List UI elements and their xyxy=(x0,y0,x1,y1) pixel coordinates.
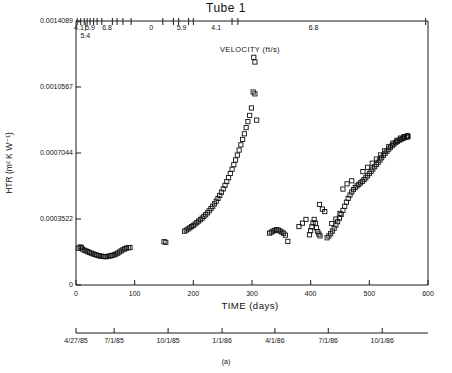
data-point xyxy=(307,233,311,237)
x-tick-label-3: 300 xyxy=(232,290,272,297)
date-tick-label-6: 10/1/86 xyxy=(356,337,408,344)
data-point xyxy=(242,132,246,136)
x-tick-label-6: 600 xyxy=(408,290,448,297)
velocity-tick-label-2: 5.4 xyxy=(73,32,97,39)
data-point xyxy=(232,163,236,167)
data-point xyxy=(239,143,243,147)
date-tick-label-3: 1/1/86 xyxy=(196,337,248,344)
velocity-axis xyxy=(77,18,425,31)
date-axis xyxy=(76,328,428,333)
date-tick-label-1: 7/1/85 xyxy=(88,337,140,344)
date-tick-label-5: 7/1/86 xyxy=(302,337,354,344)
velocity-tick-label-5: 5.9 xyxy=(170,24,194,31)
data-point xyxy=(252,55,256,59)
y-tick-label-3: 0.0010567 xyxy=(2,83,73,90)
data-point xyxy=(233,158,237,162)
data-point xyxy=(235,153,239,157)
x-tick-label-1: 100 xyxy=(115,290,155,297)
data-point xyxy=(343,204,347,208)
data-point xyxy=(361,170,365,174)
data-point xyxy=(317,202,321,206)
data-point xyxy=(249,106,253,110)
x-tick-label-5: 500 xyxy=(349,290,389,297)
velocity-tick-label-6: 4.1 xyxy=(204,24,228,31)
x-axis-ticks xyxy=(76,280,428,285)
y-tick-label-1: 0.0003522 xyxy=(2,215,73,222)
data-point xyxy=(248,113,252,117)
x-tick-label-4: 400 xyxy=(291,290,331,297)
x-tick-label-2: 200 xyxy=(173,290,213,297)
data-point xyxy=(255,118,259,122)
plot-canvas xyxy=(0,0,452,373)
data-point xyxy=(350,179,354,183)
y-tick-label-0: 0 xyxy=(2,281,73,288)
data-point xyxy=(253,60,257,64)
data-point xyxy=(286,239,290,243)
x-tick-label-0: 0 xyxy=(56,290,96,297)
data-point xyxy=(341,187,345,191)
y-tick-label-4: 0.0014089 xyxy=(2,17,73,24)
data-points xyxy=(76,55,410,259)
data-point xyxy=(230,167,234,171)
data-point xyxy=(330,221,334,225)
velocity-tick-label-4: 0 xyxy=(139,24,163,31)
data-point xyxy=(241,137,245,141)
data-point xyxy=(228,171,232,175)
data-point xyxy=(244,126,248,130)
data-point xyxy=(246,120,250,124)
data-point xyxy=(345,182,349,186)
date-tick-label-4: 4/1/86 xyxy=(249,337,301,344)
y-tick-label-2: 0.0007044 xyxy=(2,149,73,156)
data-point xyxy=(237,148,241,152)
velocity-tick-label-3: 6.8 xyxy=(95,24,119,31)
date-tick-label-2: 10/1/85 xyxy=(142,337,194,344)
figure-tube-1: Tube 1 HTR (m² K W⁻¹) TIME (days) VELOCI… xyxy=(0,0,452,373)
velocity-tick-label-7: 6.8 xyxy=(302,24,326,31)
